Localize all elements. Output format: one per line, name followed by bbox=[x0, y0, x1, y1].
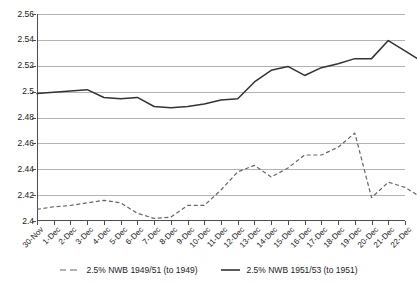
y-axis-tick bbox=[32, 221, 36, 222]
y-axis-tick-label: 2.42 bbox=[0, 191, 34, 200]
series-line-solid bbox=[37, 41, 417, 108]
series-line-dashed bbox=[37, 133, 417, 218]
y-axis-tick bbox=[32, 118, 36, 119]
legend-label-dashed: 2.5% NWB 1949/51 (to 1949) bbox=[86, 266, 197, 275]
legend-label-solid: 2.5% NWB 1951/53 (to 1951) bbox=[247, 266, 358, 275]
y-axis-tick-label: 2.44 bbox=[0, 165, 34, 174]
y-axis-tick-label: 2.46 bbox=[0, 139, 34, 148]
y-axis-tick bbox=[32, 143, 36, 144]
y-axis-tick-label: 2.54 bbox=[0, 35, 34, 44]
legend-dashed-line-icon bbox=[59, 266, 81, 274]
y-axis-tick-label: 2.56 bbox=[0, 10, 34, 19]
y-axis-tick bbox=[32, 169, 36, 170]
legend-item-solid: 2.5% NWB 1951/53 (to 1951) bbox=[220, 266, 358, 275]
line-chart: 2.42.422.442.462.482.52.522.542.56 30-No… bbox=[0, 0, 417, 282]
legend-solid-line-icon bbox=[220, 266, 242, 274]
y-axis-tick bbox=[32, 14, 36, 15]
x-axis-labels: 30-Nov1-Dec2-Dec3-Dec4-Dec5-Dec6-Dec7-De… bbox=[0, 223, 417, 263]
legend-item-dashed: 2.5% NWB 1949/51 (to 1949) bbox=[59, 266, 197, 275]
series-layer bbox=[37, 14, 405, 221]
chart-legend: 2.5% NWB 1949/51 (to 1949) 2.5% NWB 1951… bbox=[0, 261, 417, 279]
y-axis-tick bbox=[32, 92, 36, 93]
y-axis-tick bbox=[32, 40, 36, 41]
y-axis-tick-label: 2.52 bbox=[0, 61, 34, 70]
y-axis-tick bbox=[32, 66, 36, 67]
y-axis-tick-label: 2.5 bbox=[0, 87, 34, 96]
y-axis-tick-label: 2.48 bbox=[0, 113, 34, 122]
y-axis-tick bbox=[32, 195, 36, 196]
